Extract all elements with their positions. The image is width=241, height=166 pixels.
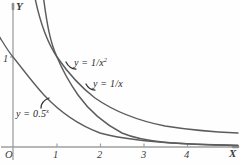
- curve-label-exponential-exponent: x: [46, 107, 49, 114]
- curve-label-inverse-square-text: y = 1/x: [74, 57, 104, 68]
- curve-label-inverse-square-exponent: 2: [104, 56, 107, 63]
- curve-label-exponential: y = 0.5x: [16, 108, 49, 119]
- graph-figure: Y X O 1 1 2 3 4 y = 1/x2 y = 1/x y = 0.5…: [0, 0, 241, 166]
- curve-label-exponential-text: y = 0.5: [16, 108, 46, 119]
- origin-label: O: [5, 150, 13, 161]
- x-axis-label: X: [229, 148, 236, 159]
- x-tick-label-4: 4: [184, 150, 189, 161]
- curve-y-1-over-x-squared: [44, 0, 239, 145]
- curve-y-1-over-x: [35, 0, 238, 133]
- curve-label-inverse-square: y = 1/x2: [74, 57, 107, 68]
- x-tick-label-3: 3: [141, 150, 146, 161]
- curve-label-inverse: y = 1/x: [93, 79, 123, 89]
- y-tick-label-1: 1: [3, 54, 8, 65]
- curve-y-0point5-power-x: [0, 36, 238, 146]
- y-axis-label: Y: [16, 1, 23, 12]
- x-tick-label-2: 2: [97, 150, 102, 161]
- x-tick-label-1: 1: [53, 150, 58, 161]
